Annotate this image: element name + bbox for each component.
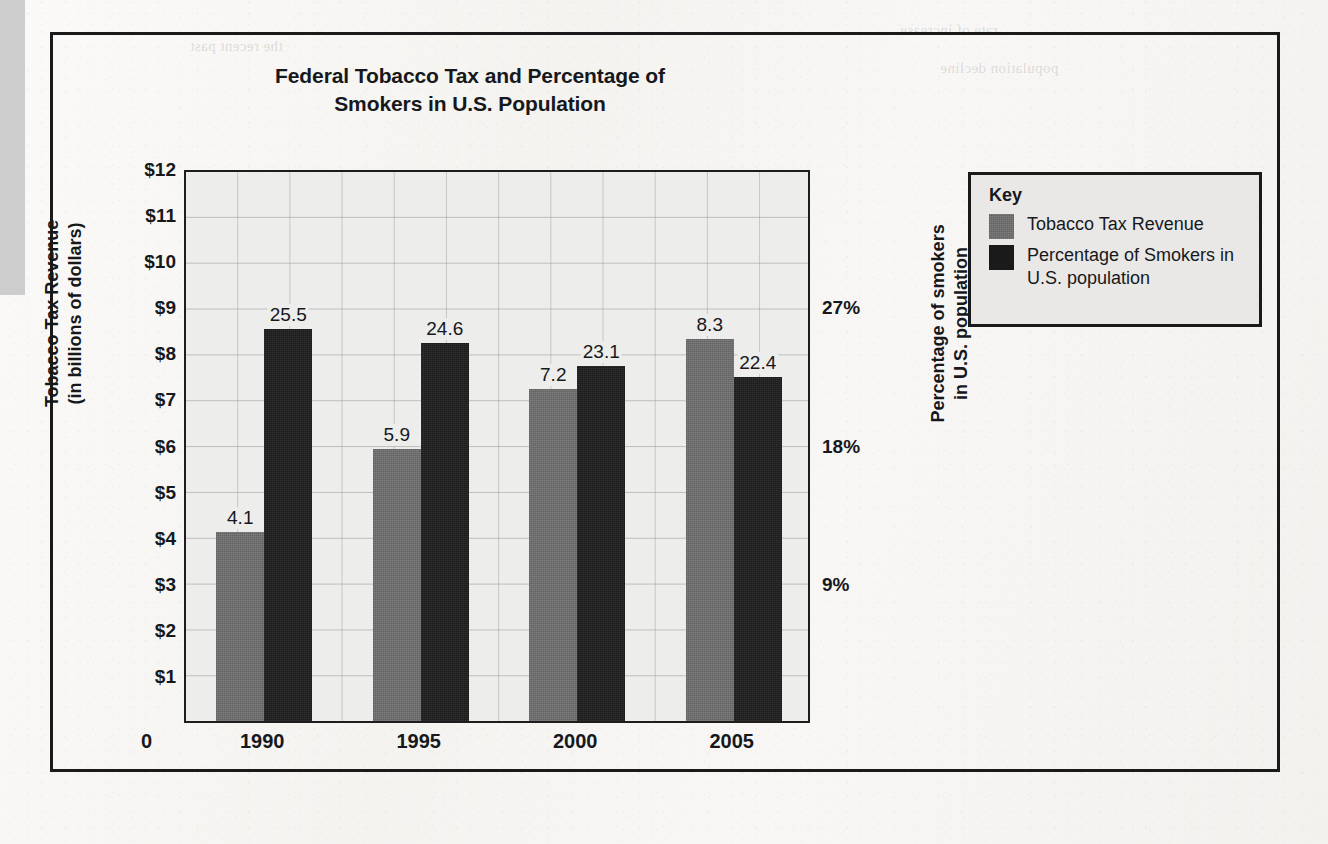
y-axis-left-tick: $9: [98, 297, 176, 319]
y-axis-left-tick: $8: [98, 343, 176, 365]
chart-title-line-1: Federal Tobacco Tax and Percentage of: [140, 62, 800, 90]
legend-swatch-revenue: [989, 214, 1014, 239]
bar-group-1995: 5.924.6: [373, 172, 469, 721]
bar-value-label: 5.9: [382, 424, 412, 446]
y-axis-left-tick: $6: [98, 436, 176, 458]
bar-value-label: 22.4: [737, 352, 778, 374]
bar-revenue-2005[interactable]: 8.3: [686, 339, 734, 721]
y-axis-right-tick: 9%: [822, 574, 849, 596]
bar-smokers-1990[interactable]: 25.5: [264, 329, 312, 721]
y-axis-left-title: Tobacco Tax Revenue (in billions of doll…: [41, 163, 88, 463]
bar-value-label: 25.5: [268, 304, 309, 326]
legend-entries: Tobacco Tax RevenuePercentage of Smokers…: [989, 213, 1259, 289]
bar-value-label: 4.1: [225, 507, 255, 529]
y-axis-right-tick: 18%: [822, 436, 860, 458]
bar-value-label: 24.6: [424, 318, 465, 340]
bar-group-2000: 7.223.1: [529, 172, 625, 721]
x-axis-origin-label: 0: [141, 730, 152, 753]
legend-key-box: Key Tobacco Tax RevenuePercentage of Smo…: [968, 172, 1262, 327]
bar-revenue-1995[interactable]: 5.9: [373, 449, 421, 721]
x-axis-tick-2000: 2000: [553, 730, 598, 753]
bar-group-1990: 4.125.5: [216, 172, 312, 721]
plot-area: 4.125.55.924.67.223.18.322.4: [184, 170, 810, 723]
bar-group-2005: 8.322.4: [686, 172, 782, 721]
y-axis-right-tick: 27%: [822, 297, 860, 319]
y-axis-left-tick: $7: [98, 389, 176, 411]
bar-smokers-2005[interactable]: 22.4: [734, 377, 782, 721]
y-axis-left-tick: $1: [98, 666, 176, 688]
x-axis-tick-1995: 1995: [397, 730, 442, 753]
x-axis-ticks: 1990199520002005: [184, 730, 810, 764]
bar-value-label: 23.1: [581, 341, 622, 363]
bar-revenue-2000[interactable]: 7.2: [529, 389, 577, 721]
y-axis-left-tick: $12: [98, 159, 176, 181]
legend-entry-label: Tobacco Tax Revenue: [1027, 213, 1204, 236]
legend-heading: Key: [989, 185, 1259, 206]
bar-value-label: 8.3: [695, 314, 725, 336]
bar-revenue-1990[interactable]: 4.1: [216, 532, 264, 721]
chart-title: Federal Tobacco Tax and Percentage of Sm…: [140, 62, 800, 117]
y-axis-left-tick: $11: [98, 205, 176, 227]
x-axis-tick-1990: 1990: [240, 730, 285, 753]
bar-smokers-2000[interactable]: 23.1: [577, 366, 625, 721]
y-axis-left-title-line-2: (in billions of dollars): [64, 163, 87, 463]
legend-swatch-smokers: [989, 245, 1014, 270]
legend-entry-label: Percentage of Smokers in U.S. population: [1027, 244, 1259, 289]
bar-value-label: 7.2: [538, 364, 568, 386]
y-axis-left-tick: $3: [98, 574, 176, 596]
y-axis-right-title: Percentage of smokers in U.S. population: [927, 173, 974, 473]
y-axis-left-tick: $4: [98, 528, 176, 550]
chart-title-line-2: Smokers in U.S. Population: [140, 90, 800, 118]
y-axis-right-title-line-1: Percentage of smokers: [927, 173, 950, 473]
bar-smokers-1995[interactable]: 24.6: [421, 343, 469, 721]
scanned-page: the recent past rate of increase populat…: [0, 0, 1328, 844]
y-axis-right-ticks: 27%18%9%: [822, 170, 892, 723]
y-axis-left-title-line-1: Tobacco Tax Revenue: [41, 163, 64, 463]
y-axis-left-tick: $2: [98, 620, 176, 642]
y-axis-left-ticks: $12$11$10$9$8$7$6$5$4$3$2$1: [88, 170, 176, 723]
y-axis-left-tick: $10: [98, 251, 176, 273]
legend-entry[interactable]: Tobacco Tax Revenue: [989, 213, 1259, 239]
page-edge-shadow: [0, 0, 25, 295]
y-axis-left-tick: $5: [98, 482, 176, 504]
x-axis-tick-2005: 2005: [710, 730, 755, 753]
legend-entry[interactable]: Percentage of Smokers in U.S. population: [989, 244, 1259, 289]
